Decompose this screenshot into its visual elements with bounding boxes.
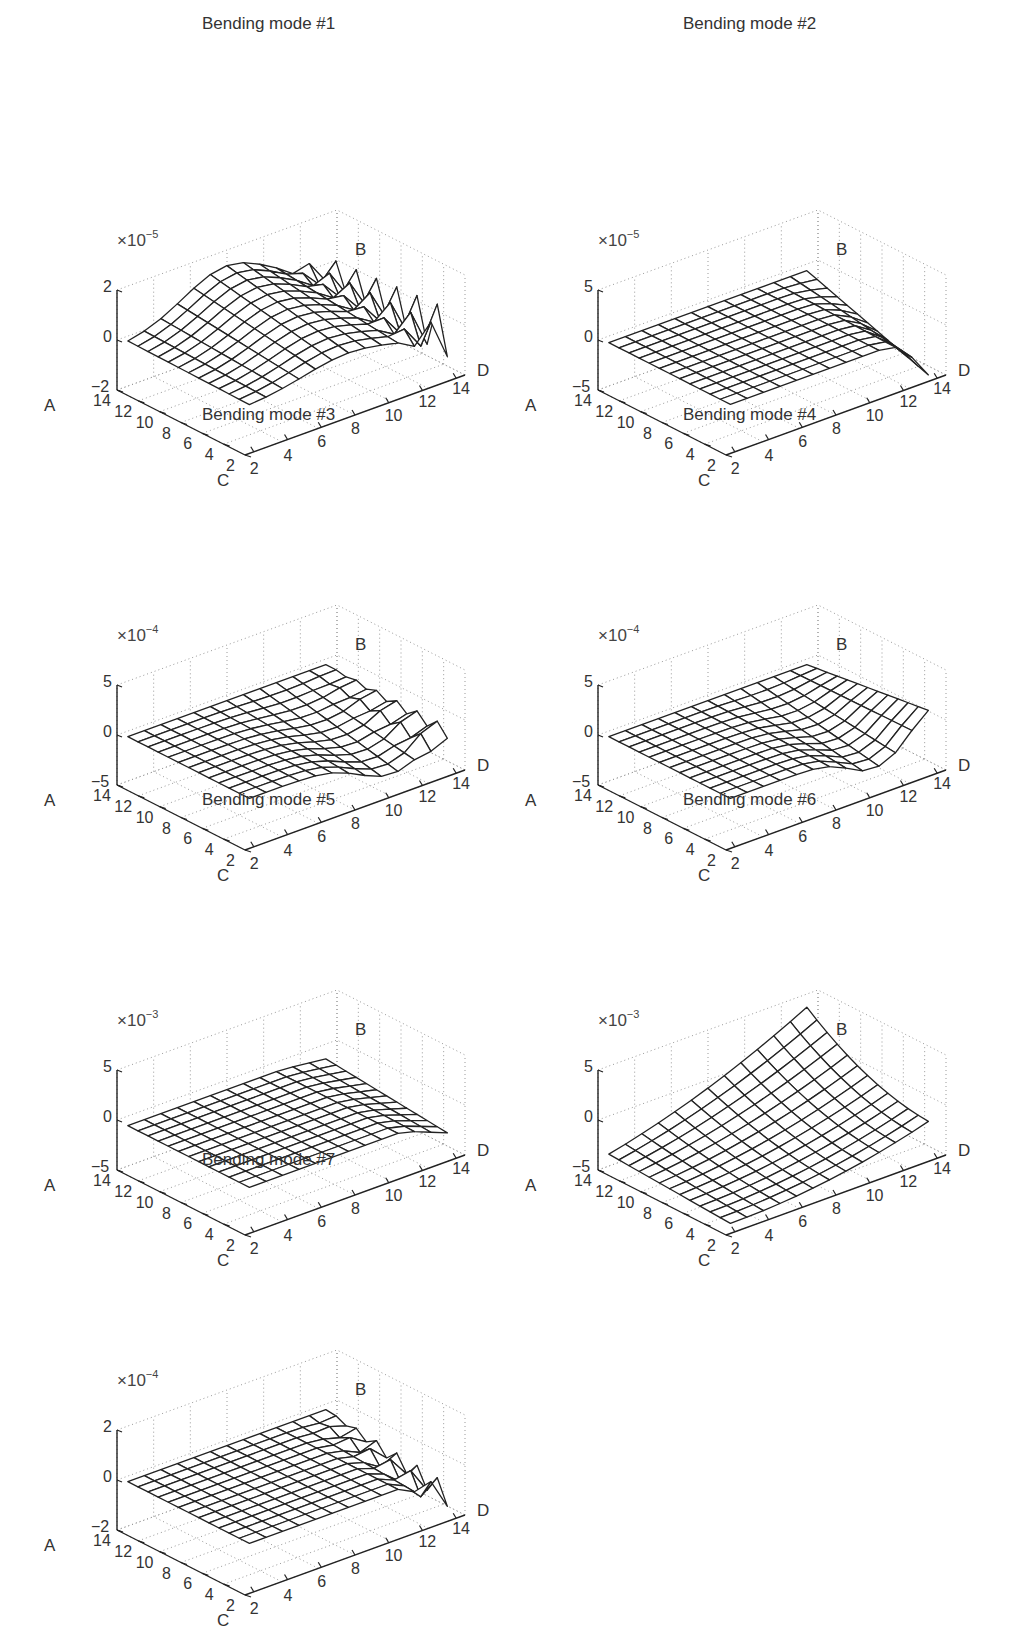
axis-label-c: C — [698, 1251, 710, 1271]
z-tick-label: 0 — [584, 1108, 593, 1126]
surface-mesh — [609, 665, 929, 799]
subplot-mode-3: 50−514121086422468101214Bending mode #3×… — [30, 395, 530, 775]
axis-label-d: D — [477, 756, 489, 776]
z-tick-label: 0 — [584, 328, 593, 346]
a-tick-label: 8 — [162, 1565, 171, 1583]
z-exponent-label: ×10−5 — [117, 228, 158, 251]
z-tick-label: 5 — [584, 673, 593, 691]
axis-label-b: B — [355, 240, 366, 260]
axis-label-a: A — [44, 1536, 55, 1556]
surface-mesh — [128, 1410, 448, 1544]
axis-label-b: B — [836, 1020, 847, 1040]
d-tick-label: 12 — [418, 1533, 436, 1551]
surface-mesh — [128, 261, 448, 404]
axis-label-d: D — [958, 361, 970, 381]
a-tick-label: 14 — [574, 1172, 592, 1190]
a-tick-label: 6 — [664, 1215, 673, 1233]
subplot-title: Bending mode #4 — [683, 405, 816, 425]
a-tick-label: 8 — [643, 1205, 652, 1223]
subplot-title: Bending mode #7 — [202, 1150, 335, 1170]
z-tick-label: 0 — [103, 723, 112, 741]
subplot-title: Bending mode #3 — [202, 405, 335, 425]
z-tick-label: 5 — [584, 1058, 593, 1076]
z-exponent-label: ×10−3 — [598, 1008, 639, 1031]
axis-label-b: B — [355, 635, 366, 655]
z-tick-label: 0 — [103, 328, 112, 346]
a-tick-label: 4 — [686, 1226, 695, 1244]
axis-label-b: B — [836, 240, 847, 260]
a-tick-label: 14 — [93, 1532, 111, 1550]
z-exponent-label: ×10−3 — [117, 1008, 158, 1031]
axis-label-b: B — [355, 1380, 366, 1400]
z-exponent-label: ×10−5 — [598, 228, 639, 251]
z-tick-label: 5 — [103, 1058, 112, 1076]
d-tick-label: 10 — [385, 1547, 403, 1565]
a-tick-label: 10 — [136, 1554, 154, 1572]
z-tick-label: 0 — [584, 723, 593, 741]
subplot-title: Bending mode #5 — [202, 790, 335, 810]
surface-plot — [511, 395, 1011, 775]
subplot-title: Bending mode #6 — [683, 790, 816, 810]
axis-label-d: D — [958, 1141, 970, 1161]
subplot-title: Bending mode #1 — [202, 14, 335, 34]
d-tick-label: 6 — [798, 1213, 807, 1231]
subplot-mode-6: 50−514121086422468101214Bending mode #6×… — [511, 780, 1011, 1160]
axis-label-d: D — [477, 361, 489, 381]
surface-plot — [30, 0, 530, 380]
surface-plot — [511, 780, 1011, 1160]
d-tick-label: 2 — [731, 1240, 740, 1258]
surface-plot — [511, 0, 1011, 380]
z-tick-label: 5 — [103, 673, 112, 691]
subplot-title: Bending mode #2 — [683, 14, 816, 34]
axis-label-d: D — [477, 1501, 489, 1521]
d-tick-label: 4 — [284, 1587, 293, 1605]
a-tick-label: 6 — [183, 1575, 192, 1593]
z-tick-label: 2 — [103, 1418, 112, 1436]
axis-label-b: B — [355, 1020, 366, 1040]
subplot-mode-1: 20−214121086422468101214Bending mode #1×… — [30, 0, 530, 380]
z-tick-label: 5 — [584, 278, 593, 296]
subplot-mode-5: 50−514121086422468101214Bending mode #5×… — [30, 780, 530, 1160]
surface-plot — [30, 395, 530, 775]
z-exponent-label: ×10−4 — [117, 623, 158, 646]
d-tick-label: 2 — [250, 1600, 259, 1618]
surface-mesh — [128, 665, 448, 799]
z-tick-label: 2 — [103, 278, 112, 296]
d-tick-label: 10 — [866, 1187, 884, 1205]
a-tick-label: 4 — [205, 1586, 214, 1604]
d-tick-label: 6 — [317, 1573, 326, 1591]
z-exponent-label: ×10−4 — [117, 1368, 158, 1391]
z-tick-label: 0 — [103, 1108, 112, 1126]
subplot-mode-2: 50−514121086422468101214Bending mode #2×… — [511, 0, 1011, 380]
axis-label-b: B — [836, 635, 847, 655]
subplot-mode-7: 20−214121086422468101214Bending mode #7×… — [30, 1140, 530, 1520]
a-tick-label: 12 — [114, 1543, 132, 1561]
a-tick-label: 10 — [617, 1194, 635, 1212]
d-tick-label: 8 — [351, 1560, 360, 1578]
d-tick-label: 14 — [452, 1520, 470, 1538]
axis-label-d: D — [958, 756, 970, 776]
surface-mesh — [609, 271, 929, 405]
z-tick-label: 0 — [103, 1468, 112, 1486]
subplot-mode-4: 50−514121086422468101214Bending mode #4×… — [511, 395, 1011, 775]
a-tick-label: 12 — [595, 1183, 613, 1201]
d-tick-label: 12 — [899, 1173, 917, 1191]
surface-plot — [30, 1140, 530, 1520]
surface-plot — [30, 780, 530, 1160]
d-tick-label: 14 — [933, 1160, 951, 1178]
d-tick-label: 8 — [832, 1200, 841, 1218]
d-tick-label: 4 — [765, 1227, 774, 1245]
axis-label-c: C — [217, 1611, 229, 1630]
z-exponent-label: ×10−4 — [598, 623, 639, 646]
